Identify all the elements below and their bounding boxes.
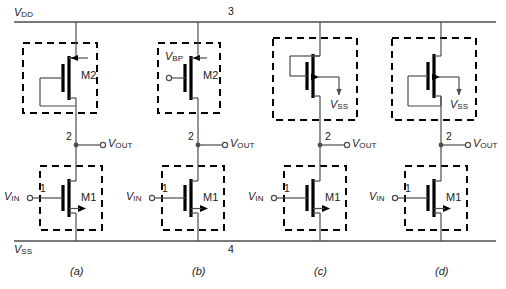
caption-c: (c)	[314, 266, 327, 277]
label-node-1-a: 1	[40, 183, 46, 194]
caption-b: (b)	[192, 266, 205, 277]
label-node-3: 3	[228, 6, 234, 17]
label-m1-c: M1	[325, 192, 340, 203]
label-vin-d: VIN	[369, 191, 385, 203]
transistor-m1-c	[271, 179, 330, 217]
circuit-a	[23, 22, 106, 241]
label-node-2-a: 2	[66, 131, 72, 142]
terminal-vout-c	[344, 142, 349, 147]
label-node-4: 4	[228, 244, 234, 255]
terminal-vout-a	[100, 142, 105, 147]
caption-a: (a)	[70, 266, 83, 277]
label-vin-a: VIN	[4, 191, 20, 203]
label-node-2-b: 2	[188, 131, 194, 142]
circuit-c	[271, 22, 357, 241]
label-m2-b: M2	[203, 70, 218, 81]
label-node-1-d: 1	[405, 183, 411, 194]
label-vin-c: VIN	[248, 191, 264, 203]
label-vss-rail: VSS	[14, 244, 32, 256]
label-vout-c: VOUT	[352, 138, 377, 150]
label-vbp-b: VBP	[165, 51, 183, 63]
terminal-vin-c	[271, 195, 276, 200]
terminal-vin-d	[392, 195, 397, 200]
circuit-d	[392, 22, 476, 241]
label-vout-d: VOUT	[473, 138, 498, 150]
caption-d: (d)	[435, 266, 448, 277]
label-m1-a: M1	[81, 192, 96, 203]
label-m2-a: M2	[81, 70, 96, 81]
terminal-vin-b	[149, 195, 154, 200]
label-vout-a: VOUT	[108, 138, 133, 150]
label-m1-b: M1	[203, 192, 218, 203]
transistor-m1-a	[27, 179, 86, 217]
transistor-m1-b	[149, 179, 208, 217]
label-node-1-c: 1	[284, 183, 290, 194]
label-m1-d: M1	[446, 192, 461, 203]
terminal-vbp-b	[166, 75, 171, 80]
label-vin-b: VIN	[126, 191, 142, 203]
transistor-m1-d	[392, 179, 451, 217]
label-vss-body-d: VSS	[450, 99, 468, 111]
label-vout-b: VOUT	[230, 138, 255, 150]
terminal-vout-d	[465, 142, 470, 147]
terminal-vin-a	[27, 195, 32, 200]
transistor-load-c	[290, 54, 339, 98]
label-vdd: VDD	[14, 7, 33, 19]
label-node-1-b: 1	[162, 183, 168, 194]
label-node-2-d: 2	[446, 131, 452, 142]
label-node-2-c: 2	[325, 131, 331, 142]
circuit-figure: VDD 3 VSS 4 M2 2 VOUT VIN 1 M1 (a) VBP M…	[0, 0, 506, 289]
terminal-vout-b	[222, 142, 227, 147]
label-vss-body-c: VSS	[330, 99, 348, 111]
